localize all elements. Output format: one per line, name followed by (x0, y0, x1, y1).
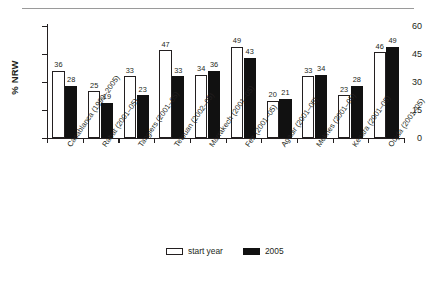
chart-legend: start year2005 (166, 246, 284, 256)
legend-label: 2005 (265, 246, 284, 256)
legend-label: start year (188, 246, 223, 256)
x-axis-label: Oujda (2001–05) (387, 97, 426, 148)
legend-swatch-icon (243, 248, 260, 255)
legend-swatch-icon (166, 248, 183, 255)
x-axis-label: Kenitra (2001–05) (351, 94, 392, 148)
x-axis-label: Rabat (2001–05) (101, 97, 140, 148)
x-axis-label: Agadir (2001–05) (280, 96, 320, 149)
legend-item-y2005: 2005 (243, 246, 284, 256)
x-axis-label: Fez (2001–05) (244, 104, 279, 149)
legend-item-start: start year (166, 246, 223, 256)
